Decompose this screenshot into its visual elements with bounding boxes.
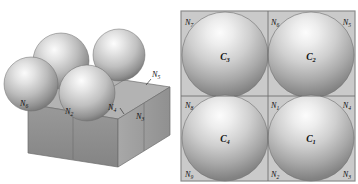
clipped-text-strip: • • • • • • • • • • • • • • • • • • • • [0,0,358,7]
svg-text:N5: N5 [151,70,160,80]
top-view-svg: C3 C2 C4 C1 N7 N6 N5 N8 N1 N4 N9 N2 N3 [180,10,356,182]
left-panel-perspective-view: N6 N2 N4 N3 N5 [0,7,179,184]
clipped-caption-text: • • • • • • • • • • • • • • • • • • • • [4,0,110,2]
left-node-label-N5: N5 [146,70,160,85]
sphere-front-left [4,57,58,111]
perspective-svg: N6 N2 N4 N3 N5 [0,7,179,184]
figure-container: N6 N2 N4 N3 N5 [0,7,358,184]
right-panel-top-view: C3 C2 C4 C1 N7 N6 N5 N8 N1 N4 N9 N2 N3 [180,10,356,182]
